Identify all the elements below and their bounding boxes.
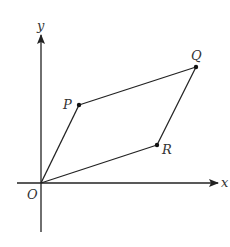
segment-pq [79,67,196,105]
point-p [77,103,81,107]
point-q [194,65,198,69]
segment-qr [157,67,196,145]
point-q-label: Q [191,48,202,63]
diagram-canvas: y x O P Q R [0,0,230,247]
y-axis-label: y [36,18,45,33]
x-axis-label: x [221,175,229,190]
segment-ro [41,145,157,183]
point-r-label: R [161,142,172,157]
point-r [155,143,159,147]
segment-op [41,105,79,183]
origin-label: O [27,187,38,202]
point-p-label: P [62,97,72,112]
